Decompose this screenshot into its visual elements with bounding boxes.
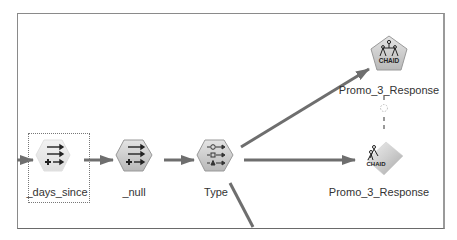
node-null[interactable] xyxy=(116,140,152,171)
node-label-chaid-model[interactable]: Promo_3_Response xyxy=(339,84,439,96)
node-chaid-nugget[interactable]: CHAID xyxy=(367,142,404,175)
node-chaid-model[interactable]: CHAID xyxy=(371,36,407,70)
link-type-offscreen xyxy=(230,183,253,227)
model-link-connector xyxy=(381,105,388,112)
node-label-days-since[interactable]: _days_since xyxy=(26,186,87,198)
node-label-null[interactable]: _null xyxy=(122,186,145,198)
svg-text:CHAID: CHAID xyxy=(367,161,387,167)
node-type[interactable] xyxy=(197,140,233,171)
node-label-type[interactable]: Type xyxy=(204,186,228,198)
link-type-chaid-model xyxy=(241,69,369,147)
stream-links: CHAID CHAID xyxy=(0,0,457,240)
chaid-icon-text: CHAID xyxy=(379,57,400,64)
node-label-chaid-nugget[interactable]: Promo_3_Response xyxy=(329,186,429,198)
